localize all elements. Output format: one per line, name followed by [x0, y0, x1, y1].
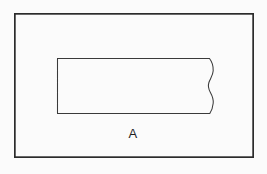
figure-canvas: A	[0, 0, 267, 174]
part-label-a: A	[129, 126, 138, 141]
technical-drawing-svg: A	[0, 0, 267, 174]
inner-part-outline-with-break-line	[58, 59, 214, 114]
